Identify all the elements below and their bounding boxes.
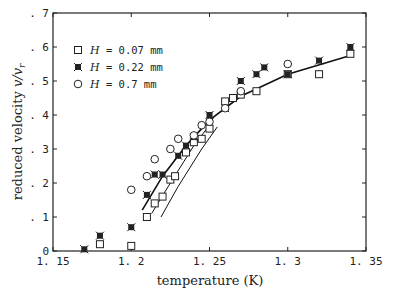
- y-tick-label: . 4: [29, 109, 49, 122]
- star-marker: [159, 171, 167, 179]
- y-tick-label: 0: [42, 245, 49, 258]
- data-points: [80, 43, 354, 253]
- legend: H = 0.07 mmH = 0.22 mmH = 0.7 mm: [74, 44, 163, 91]
- y-tick-label: . 2: [29, 177, 49, 190]
- circle-marker: [74, 80, 82, 88]
- circle-marker: [198, 121, 206, 129]
- legend-item: H = 0.7 mm: [74, 78, 156, 91]
- star-marker: [151, 171, 159, 179]
- star-marker: [237, 77, 245, 85]
- x-tick-label: 1. 25: [193, 255, 226, 268]
- x-axis-label: temperature (K): [157, 273, 264, 288]
- square-marker: [206, 125, 213, 132]
- y-tick-label: . 3: [29, 143, 49, 156]
- fit-curve: [142, 56, 350, 211]
- y-tick-label: . 5: [29, 75, 49, 88]
- fit-curves: [142, 56, 350, 218]
- svg-text:H = 0.07 mm: H = 0.07 mm: [89, 44, 163, 57]
- svg-text:H = 0.7 mm: H = 0.7 mm: [89, 78, 157, 91]
- circle-marker: [127, 186, 135, 194]
- square-marker: [143, 214, 150, 221]
- star-marker: [252, 70, 260, 78]
- fit-curve: [161, 127, 217, 217]
- star-marker: [182, 142, 190, 150]
- square-marker: [316, 71, 323, 78]
- circle-marker: [174, 135, 182, 143]
- star-marker: [143, 191, 151, 199]
- square-marker: [253, 88, 260, 95]
- axis-ticks: 1. 151. 21. 251. 31. 350. 1. 2. 3. 4. 5.…: [29, 7, 382, 268]
- y-tick-label: . 1: [29, 211, 49, 224]
- square-marker: [172, 173, 179, 180]
- circle-marker: [151, 155, 159, 163]
- square-marker: [159, 193, 166, 200]
- circle-marker: [284, 60, 292, 68]
- y-axis-label: reduced velocity v/vr: [10, 63, 27, 200]
- circle-marker: [167, 145, 175, 153]
- x-tick-label: 1. 2: [118, 255, 145, 268]
- square-marker: [183, 149, 190, 156]
- scatter-chart: 1. 151. 21. 251. 31. 350. 1. 2. 3. 4. 5.…: [0, 0, 394, 297]
- circle-marker: [221, 104, 229, 112]
- circle-marker: [237, 87, 245, 95]
- square-marker: [96, 241, 103, 248]
- square-marker: [229, 95, 236, 102]
- circle-marker: [143, 172, 151, 180]
- star-marker: [346, 43, 354, 51]
- star-marker: [174, 152, 182, 160]
- square-marker: [75, 47, 82, 54]
- star-marker: [80, 245, 88, 253]
- circle-marker: [206, 118, 214, 126]
- y-tick-label: . 6: [29, 41, 49, 54]
- square-marker: [198, 135, 205, 142]
- legend-item: H = 0.07 mm: [75, 44, 163, 57]
- square-marker: [222, 98, 229, 105]
- legend-item: H = 0.22 mm: [74, 61, 163, 74]
- star-marker: [96, 232, 104, 240]
- star-marker: [260, 63, 268, 71]
- star-marker: [74, 63, 82, 71]
- x-tick-label: 1. 3: [275, 255, 302, 268]
- x-tick-label: 1. 35: [349, 255, 382, 268]
- y-tick-label: . 7: [29, 7, 49, 20]
- square-marker: [151, 200, 158, 207]
- square-marker: [128, 242, 135, 249]
- star-marker: [315, 57, 323, 65]
- series: [80, 43, 354, 253]
- square-marker: [347, 50, 354, 57]
- circle-marker: [190, 132, 198, 140]
- star-marker: [127, 223, 135, 231]
- star-marker: [284, 70, 292, 78]
- svg-text:H = 0.22 mm: H = 0.22 mm: [89, 61, 163, 74]
